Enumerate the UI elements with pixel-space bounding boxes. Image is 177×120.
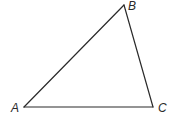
triangle-diagram: A B C (0, 0, 177, 120)
vertex-label-c: C (158, 101, 167, 115)
vertex-label-b: B (128, 0, 136, 13)
edge-ab (24, 5, 124, 107)
edge-bc (124, 5, 153, 107)
vertex-label-a: A (10, 101, 19, 115)
